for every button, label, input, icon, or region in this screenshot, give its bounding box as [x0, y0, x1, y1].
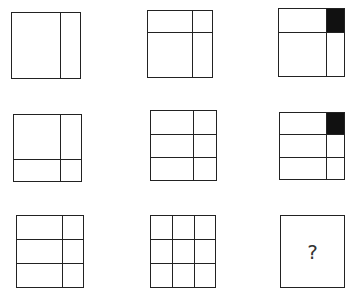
horizontal-divider [17, 239, 83, 240]
horizontal-divider [280, 134, 344, 135]
filled-square [326, 9, 344, 32]
horizontal-divider [17, 263, 83, 264]
question-mark: ? [281, 240, 344, 264]
vertical-divider [326, 9, 327, 76]
figure-cell-r1c3 [278, 8, 345, 77]
vertical-divider [192, 11, 193, 77]
figure-cell-r2c3 [279, 112, 345, 180]
vertical-divider [326, 113, 327, 179]
horizontal-divider [151, 263, 215, 264]
figure-cell-r2c1 [13, 114, 82, 182]
horizontal-divider [280, 157, 344, 158]
horizontal-divider [151, 239, 215, 240]
figure-cell-r3c1 [16, 215, 84, 288]
vertical-divider [194, 216, 195, 287]
answer-cell[interactable]: ? [280, 215, 345, 288]
horizontal-divider [279, 32, 344, 33]
filled-square [326, 113, 344, 134]
vertical-divider [193, 111, 194, 180]
vertical-divider [60, 115, 61, 181]
figure-cell-r2c2 [150, 110, 217, 181]
vertical-divider [60, 13, 61, 78]
figure-cell-r1c2 [147, 10, 213, 78]
horizontal-divider [14, 159, 81, 160]
horizontal-divider [148, 32, 212, 33]
vertical-divider [62, 216, 63, 287]
vertical-divider [172, 216, 173, 287]
figure-cell-r1c1 [11, 12, 81, 79]
figure-cell-r3c2 [150, 215, 216, 288]
horizontal-divider [151, 134, 216, 135]
horizontal-divider [151, 157, 216, 158]
